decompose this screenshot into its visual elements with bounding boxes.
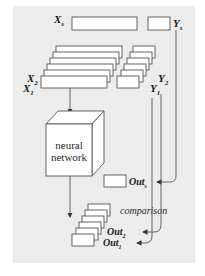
ys-box	[148, 17, 170, 30]
ys-label: Ys	[173, 17, 183, 32]
nn-label-line1: neural	[55, 139, 82, 151]
y1-label: Y1	[150, 82, 160, 97]
x-stack	[41, 46, 122, 88]
ys-comparison-line	[157, 30, 176, 182]
comparison-label: comparison	[120, 205, 167, 216]
diagram-canvas: Xs Ys X2 X1 Y2 Y1 neural network Outs	[0, 0, 205, 276]
outs-box	[104, 175, 126, 187]
y1-comparison-line	[137, 98, 152, 243]
out1-label: Out1	[103, 237, 122, 250]
x1-label: X1	[22, 82, 34, 97]
y2-label: Y2	[158, 72, 169, 87]
xs-box	[72, 17, 137, 30]
outs-label: Outs	[129, 176, 148, 189]
nn-label-line2: network	[51, 151, 88, 163]
xs-label: Xs	[53, 13, 64, 28]
